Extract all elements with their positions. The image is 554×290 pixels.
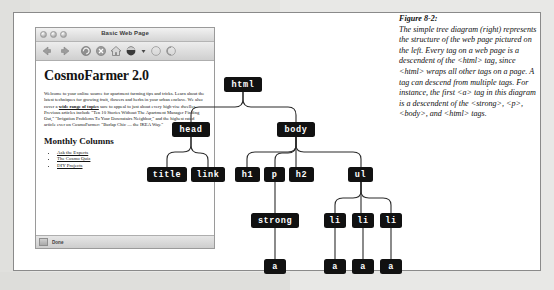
back-icon[interactable] <box>40 45 52 57</box>
reload-icon[interactable] <box>80 45 92 57</box>
link-label[interactable]: DIY Projects <box>57 163 83 168</box>
tree-node-h1[interactable]: h1 <box>235 167 260 182</box>
tree-node-p[interactable]: p <box>264 167 285 182</box>
stop-icon[interactable] <box>95 45 107 57</box>
tree-node-a-1[interactable]: a <box>264 259 286 274</box>
tree-edges <box>139 27 404 282</box>
figure-number: Figure 8-2: <box>399 14 437 23</box>
link-label[interactable]: Ask the Experts <box>57 150 88 155</box>
tree-node-a-3[interactable]: a <box>352 259 374 274</box>
tree-node-strong[interactable]: strong <box>251 213 299 228</box>
security-icon <box>39 238 48 246</box>
tree-node-html[interactable]: html <box>224 77 262 92</box>
tree-node-a-4[interactable]: a <box>380 259 402 274</box>
figure-caption: Figure 8-2: The simple tree diagram (rig… <box>399 14 539 120</box>
tree-node-title[interactable]: title <box>147 167 187 182</box>
status-label: Done <box>52 240 63 245</box>
figure-caption-text: The simple tree diagram (right) represen… <box>399 25 536 119</box>
tree-node-li-3[interactable]: li <box>380 213 402 228</box>
tree-node-ul[interactable]: ul <box>348 167 373 182</box>
tree-node-li-2[interactable]: li <box>352 213 374 228</box>
tree-node-head[interactable]: head <box>172 122 210 137</box>
tree-node-a-2[interactable]: a <box>324 259 346 274</box>
bookmarks-icon[interactable] <box>125 45 137 57</box>
tree-node-link[interactable]: link <box>191 167 225 182</box>
tree-node-body[interactable]: body <box>277 122 315 137</box>
tree-diagram: html head body title link h1 p h2 ul str… <box>139 27 404 282</box>
tree-node-h2[interactable]: h2 <box>289 167 314 182</box>
home-icon[interactable] <box>110 45 122 57</box>
link-label[interactable]: The Cosmo Quiz <box>57 156 90 161</box>
forward-icon[interactable] <box>60 45 72 57</box>
tree-node-li-1[interactable]: li <box>324 213 346 228</box>
inline-link[interactable]: wide range of topics <box>59 104 99 109</box>
